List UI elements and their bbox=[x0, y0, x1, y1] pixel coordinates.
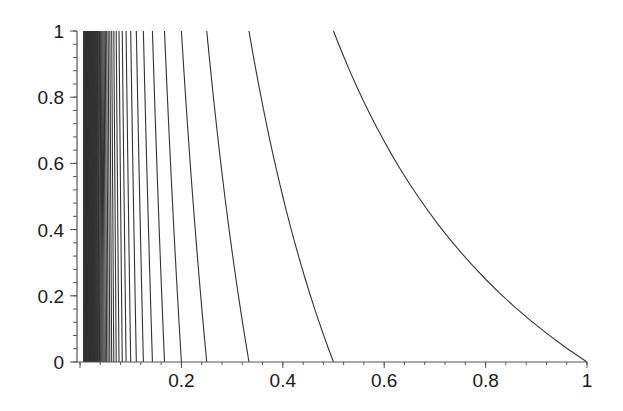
y-tick-label: 1 bbox=[53, 21, 64, 42]
y-tick-label: 0 bbox=[53, 352, 64, 373]
contour-curve bbox=[122, 31, 126, 362]
contour-curve bbox=[119, 31, 122, 362]
contour-curve bbox=[136, 31, 143, 362]
x-tick-label: 0.6 bbox=[371, 370, 397, 391]
y-tick-label: 0.2 bbox=[38, 286, 64, 307]
contour-curve bbox=[334, 31, 588, 362]
y-tick-label: 0.8 bbox=[38, 87, 64, 108]
contour-curve bbox=[249, 31, 334, 362]
contour-curves bbox=[84, 31, 587, 362]
x-tick-label: 0.2 bbox=[168, 370, 194, 391]
contour-curve bbox=[165, 31, 182, 362]
x-tick-label: 0.8 bbox=[472, 370, 498, 391]
contour-curve bbox=[181, 31, 206, 362]
contour-curve bbox=[126, 31, 131, 362]
y-tick-label: 0.6 bbox=[38, 153, 64, 174]
contour-curve bbox=[143, 31, 152, 362]
y-axis-ticks: 00.20.40.60.81 bbox=[38, 21, 77, 373]
y-tick-label: 0.4 bbox=[38, 220, 65, 241]
contour-plot: 0.20.40.60.81 00.20.40.60.81 bbox=[0, 0, 623, 411]
x-tick-label: 0.4 bbox=[270, 370, 297, 391]
contour-curve bbox=[112, 31, 114, 362]
contour-curve bbox=[116, 31, 119, 362]
contour-curve bbox=[114, 31, 116, 362]
contour-curve bbox=[207, 31, 249, 362]
x-axis-ticks: 0.20.40.60.81 bbox=[80, 362, 592, 391]
x-tick-label: 1 bbox=[582, 370, 593, 391]
contour-curve bbox=[152, 31, 164, 362]
contour-curve bbox=[131, 31, 137, 362]
